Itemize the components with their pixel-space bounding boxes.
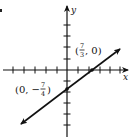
svg-text:3: 3 bbox=[80, 51, 84, 59]
x-axis bbox=[3, 67, 128, 74]
x-intercept-label: ( 7 3 , 0) bbox=[75, 42, 102, 59]
svg-text:7: 7 bbox=[80, 42, 84, 50]
coordinate-plot: x y (0, − 7 4 ) ( 7 3 , 0) bbox=[0, 0, 135, 139]
x-axis-label: x bbox=[123, 72, 128, 82]
svg-text:4: 4 bbox=[41, 90, 45, 98]
x-intercept-point bbox=[90, 68, 94, 72]
svg-text:7: 7 bbox=[41, 81, 45, 89]
svg-text:): ) bbox=[47, 84, 51, 95]
y-axis bbox=[64, 6, 71, 137]
stray-mark bbox=[0, 9, 2, 12]
svg-text:(: ( bbox=[75, 45, 79, 56]
y-axis-label: y bbox=[70, 5, 77, 15]
y-intercept-label: (0, − 7 4 ) bbox=[15, 81, 51, 98]
svg-text:(0, −: (0, − bbox=[15, 84, 40, 95]
svg-text:, 0): , 0) bbox=[85, 45, 102, 56]
y-intercept-point bbox=[65, 87, 69, 91]
